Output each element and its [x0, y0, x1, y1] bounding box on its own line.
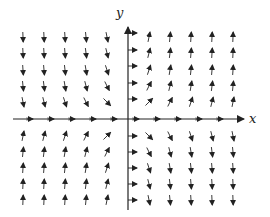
field-arrow	[189, 97, 192, 106]
field-arrow	[106, 32, 108, 42]
field-arrow	[191, 195, 192, 205]
field-arrow	[43, 81, 44, 91]
field-arrow	[23, 81, 24, 91]
field-arrow	[44, 163, 45, 173]
field-arrow	[43, 97, 45, 107]
field-arrow	[44, 179, 45, 189]
field-arrow	[189, 131, 192, 140]
y-axis-label: y	[116, 5, 123, 20]
field-arrow	[43, 147, 44, 157]
field-arrow	[106, 48, 108, 58]
axis-arrows	[27, 33, 223, 200]
field-arrow	[84, 98, 88, 107]
field-arrow	[233, 147, 234, 157]
field-arrow	[169, 65, 171, 75]
field-arrow	[148, 48, 150, 58]
field-arrow	[169, 163, 171, 173]
field-arrow	[85, 81, 87, 91]
field-arrow	[147, 65, 150, 74]
field-arrow	[170, 32, 171, 42]
field-arrow	[190, 147, 192, 157]
field-arrow	[65, 48, 66, 58]
field-arrow	[190, 163, 191, 173]
field-arrow	[44, 48, 45, 58]
field-arrow	[65, 179, 66, 189]
field-arrow	[23, 147, 24, 157]
field-arrow	[233, 65, 234, 75]
axes	[13, 27, 244, 210]
field-arrow	[211, 97, 213, 107]
field-arrow	[64, 65, 65, 75]
field-arrow	[190, 65, 191, 75]
field-arrow	[233, 163, 234, 173]
field-arrow	[103, 132, 110, 139]
field-arrow	[105, 82, 109, 91]
field-arrow	[85, 48, 86, 58]
field-arrow	[106, 179, 108, 189]
field-arrow	[23, 65, 24, 75]
field-arrow	[105, 65, 108, 74]
field-arrow	[212, 65, 213, 75]
field-arrow	[22, 97, 24, 107]
x-axis-label: x	[249, 111, 256, 126]
field-arrow	[232, 131, 234, 141]
field-arrow	[191, 48, 192, 58]
field-arrow	[65, 32, 66, 42]
field-arrow	[212, 179, 213, 189]
field-arrow	[63, 97, 66, 106]
field-arrow	[84, 132, 88, 141]
field-arrow	[169, 179, 170, 189]
field-arrow	[233, 81, 234, 91]
field-arrow	[148, 32, 150, 42]
field-arrow	[44, 65, 45, 75]
field-arrow	[147, 163, 150, 172]
field-arrow	[190, 81, 192, 91]
field-arrow	[169, 147, 171, 157]
field-arrow	[86, 32, 87, 42]
field-arrow	[103, 98, 110, 105]
field-arrow	[211, 81, 212, 91]
field-arrow	[169, 48, 170, 58]
field-arrow	[191, 179, 192, 189]
field-arrow	[169, 81, 171, 91]
field-arrow	[147, 82, 151, 91]
field-arrow	[22, 131, 24, 141]
field-arrow	[85, 147, 87, 157]
field-arrow	[64, 81, 66, 91]
field-arrow	[85, 65, 87, 75]
field-arrow	[106, 195, 108, 205]
field-arrow	[191, 32, 192, 42]
field-arrow	[212, 48, 213, 58]
field-arrow	[148, 195, 150, 205]
field-arrow	[170, 195, 171, 205]
field-arrow	[86, 195, 87, 205]
field-arrow	[145, 98, 152, 105]
field-arrow	[211, 131, 213, 141]
field-arrow	[148, 179, 150, 189]
field-arrow	[64, 163, 65, 173]
field-arrow	[85, 163, 87, 173]
field-arrow	[65, 195, 66, 205]
field-arrow	[145, 132, 152, 139]
field-arrow	[212, 163, 213, 173]
field-arrow	[168, 98, 172, 107]
field-arrow	[105, 148, 109, 157]
field-arrow	[64, 147, 66, 157]
field-arrow	[232, 97, 234, 107]
field-arrow	[85, 179, 86, 189]
field-arrow	[105, 163, 108, 172]
field-arrow	[147, 148, 151, 157]
field-arrow	[23, 163, 24, 173]
field-arrow	[211, 147, 212, 157]
field-arrow	[63, 131, 66, 140]
vector-field-diagram	[0, 0, 270, 217]
field-arrow	[168, 132, 172, 141]
field-arrow	[43, 131, 45, 141]
